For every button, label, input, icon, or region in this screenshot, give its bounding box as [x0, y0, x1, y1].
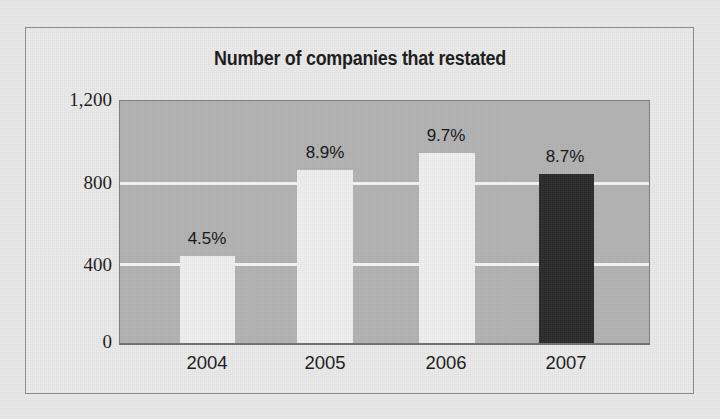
- bar-2007: [539, 174, 594, 344]
- x-tick-2007: 2007: [511, 352, 621, 374]
- y-tick-0: 0: [12, 331, 112, 353]
- bar-2005: [297, 170, 353, 344]
- y-tick-800: 800: [12, 172, 112, 194]
- data-label-2005: 8.9%: [280, 143, 370, 163]
- y-tick-1200: 1,200: [12, 89, 112, 111]
- x-tick-2006: 2006: [391, 352, 501, 374]
- figure-page: Number of companies that restated 1,200 …: [0, 0, 720, 419]
- x-axis-line: [119, 343, 650, 345]
- data-label-2006: 9.7%: [401, 126, 491, 146]
- plot-inner: [120, 101, 649, 344]
- data-label-2004: 4.5%: [162, 229, 252, 249]
- bar-2004: [180, 256, 235, 344]
- y-tick-400: 400: [12, 254, 112, 276]
- chart-title: Number of companies that restated: [29, 47, 691, 70]
- x-tick-2005: 2005: [270, 352, 380, 374]
- plot-area: [119, 100, 650, 344]
- x-tick-2004: 2004: [152, 352, 262, 374]
- bar-2006: [419, 153, 475, 344]
- data-label-2007: 8.7%: [520, 147, 610, 167]
